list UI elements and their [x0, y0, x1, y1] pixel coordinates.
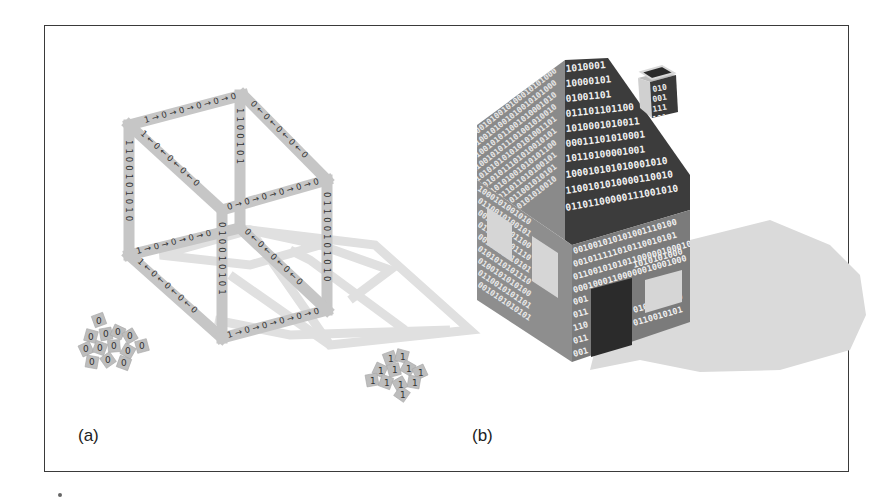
- svg-text:1100101: 1100101: [235, 108, 245, 167]
- panel-a-cube: 1 → 0 → 0 → 0 → 0 → 0 1 ← 0 ← 0 ← 0 ← 0 …: [78, 91, 470, 403]
- svg-text:0 ← 0 ← 0 ← 0 ← 0: 0 ← 0 ← 0 ← 0 ← 0: [249, 98, 311, 160]
- panel-label-a: (a): [78, 426, 99, 446]
- svg-text:1 ← 0 ← 0 ← 0 ← 0: 1 ← 0 ← 0 ← 0 ← 0: [139, 128, 202, 188]
- svg-text:1 → 0 → 0 → 0 → 0 → 0: 1 → 0 → 0 → 0 → 0 → 0: [143, 91, 237, 125]
- svg-text:01100101010: 01100101010: [322, 192, 332, 285]
- svg-text:0: 0: [89, 357, 95, 367]
- zeros-tile-pile: 000 000 000 000 0: [78, 312, 149, 370]
- svg-text:0: 0: [121, 358, 127, 368]
- svg-text:1: 1: [406, 364, 412, 374]
- svg-text:010010101: 010010101: [217, 222, 227, 298]
- svg-text:0: 0: [83, 344, 89, 354]
- svg-text:0: 0: [127, 331, 133, 341]
- svg-text:0: 0: [105, 355, 111, 365]
- svg-text:1100101010: 1100101010: [124, 140, 134, 224]
- svg-text:0: 0: [139, 341, 145, 351]
- svg-text:0: 0: [103, 329, 109, 339]
- svg-text:1: 1: [388, 354, 394, 364]
- ones-tile-pile: 111 111 111 11: [365, 349, 428, 403]
- page-marker-dot: [58, 493, 62, 497]
- svg-text:1: 1: [378, 366, 384, 376]
- panel-label-b: (b): [472, 426, 493, 446]
- svg-text:0: 0: [111, 341, 117, 351]
- svg-text:1: 1: [370, 376, 376, 386]
- svg-text:1 ← 0 ← 0 ← 0 ← 0: 1 ← 0 ← 0 ← 0 ← 0: [136, 256, 200, 315]
- svg-text:1: 1: [384, 378, 390, 388]
- svg-text:0: 0: [125, 346, 131, 356]
- svg-text:1: 1: [398, 380, 404, 390]
- svg-text:0: 0: [97, 343, 103, 353]
- svg-text:0: 0: [88, 332, 94, 342]
- svg-text:0: 0: [115, 327, 121, 337]
- svg-text:1: 1: [392, 365, 398, 375]
- svg-text:1: 1: [418, 368, 424, 378]
- svg-text:0: 0: [96, 316, 102, 326]
- svg-text:1: 1: [400, 352, 406, 362]
- figure-artwork: 1 → 0 → 0 → 0 → 0 → 0 1 ← 0 ← 0 ← 0 ← 0 …: [0, 0, 892, 500]
- panel-b-house: 10001010010100010101000 0110010100101001…: [466, 58, 866, 372]
- door: [591, 278, 632, 357]
- svg-text:1: 1: [400, 390, 406, 400]
- svg-text:101: 101: [652, 113, 668, 124]
- svg-text:1: 1: [412, 378, 418, 388]
